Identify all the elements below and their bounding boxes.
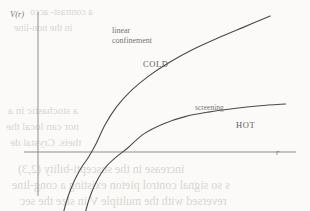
- linear-confinement-line2: confinement: [112, 36, 152, 46]
- y-axis-label: V(r): [10, 9, 24, 19]
- x-axis-label: r: [276, 147, 279, 157]
- hot-region-label: HOT: [236, 120, 255, 130]
- linear-confinement-line1: linear: [112, 26, 152, 36]
- hot-potential-curve: [86, 104, 286, 211]
- cold-region-label: COLD: [143, 59, 169, 69]
- plot-canvas: [0, 0, 310, 211]
- potential-plot-figure: a contrast- acco in the non-line a stoch…: [0, 0, 310, 211]
- screening-annotation: screening: [195, 103, 224, 112]
- cold-potential-curve: [64, 16, 270, 211]
- linear-confinement-annotation: linear confinement: [112, 26, 152, 46]
